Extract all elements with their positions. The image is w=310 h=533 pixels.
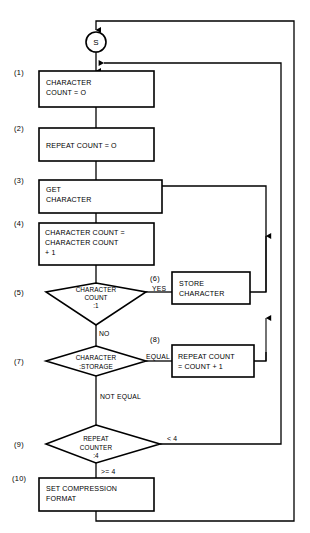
step-9-number: (9)	[14, 440, 24, 449]
step-8-number: (8)	[150, 335, 160, 344]
step-1-line-1: CHARACTER	[46, 79, 92, 87]
step-10-line-1: SET COMPRESSION	[46, 485, 117, 493]
flowchart-canvas: S CHARACTER COUNT = O (1) REPEAT COUNT =…	[0, 0, 310, 533]
step-2-node: REPEAT COUNT = O	[39, 128, 154, 161]
step-2-line-1: REPEAT COUNT = O	[46, 142, 117, 150]
step-2-number: (2)	[14, 124, 24, 133]
connector-repeatcount-to-getchar	[254, 318, 266, 361]
step-4-line-2: CHARACTER COUNT	[45, 239, 119, 247]
step-10-node: SET COMPRESSION FORMAT	[39, 478, 154, 511]
flowchart-svg: S CHARACTER COUNT = O (1) REPEAT COUNT =…	[0, 0, 310, 533]
edge-label-ge-four: >= 4	[101, 468, 115, 475]
edge-label-no: NO	[99, 330, 110, 337]
step-6-number: (6)	[150, 274, 160, 283]
edge-label-not-equal: NOT EQUAL	[100, 393, 141, 401]
step-8-line-2: = COUNT + 1	[178, 363, 223, 371]
step-4-node: CHARACTER COUNT = CHARACTER COUNT + 1	[39, 223, 154, 265]
step-7-line-2: :STORAGE	[79, 363, 113, 370]
step-1-number: (1)	[14, 68, 24, 77]
step-1-line-2: COUNT = O	[46, 89, 86, 97]
step-5-number: (5)	[14, 288, 24, 297]
step-5-node: CHARACTER COUNT :1	[46, 283, 146, 325]
step-9-line-3: :4	[93, 452, 99, 459]
start-node-label: S	[93, 38, 98, 47]
step-10-line-2: FORMAT	[46, 495, 77, 503]
step-9-line-2: COUNTER	[80, 444, 113, 451]
step-4-line-3: + 1	[45, 249, 56, 257]
step-7-number: (7)	[14, 357, 24, 366]
step-5-line-1: CHARACTER	[76, 286, 117, 293]
step-3-node: GET CHARACTER	[39, 180, 162, 213]
edge-label-less-than-four: < 4	[167, 435, 177, 442]
step-9-line-1: REPEAT	[83, 435, 109, 442]
step-6-node: STORE CHARACTER	[172, 272, 250, 304]
step-6-line-1: STORE	[179, 280, 204, 288]
step-7-line-1: CHARACTER	[76, 354, 117, 361]
step-7-node: CHARACTER :STORAGE	[46, 346, 146, 376]
step-3-line-2: CHARACTER	[46, 196, 92, 204]
step-8-line-1: REPEAT COUNT	[178, 353, 235, 361]
edge-label-yes: YES	[152, 285, 166, 292]
step-3-line-1: GET	[46, 186, 62, 194]
start-node: S	[86, 32, 106, 52]
step-9-node: REPEAT COUNTER :4	[46, 425, 160, 463]
step-5-line-2: COUNT	[84, 294, 107, 301]
step-10-number: (10)	[12, 474, 26, 483]
edge-label-equal: EQUAL	[146, 353, 170, 361]
step-4-number: (4)	[14, 219, 24, 228]
step-1-node: CHARACTER COUNT = O	[39, 71, 154, 107]
step-6-line-2: CHARACTER	[179, 290, 225, 298]
step-8-node: REPEAT COUNT = COUNT + 1	[172, 345, 254, 377]
step-4-line-1: CHARACTER COUNT =	[45, 229, 125, 237]
step-3-number: (3)	[14, 176, 24, 185]
step-5-line-3: :1	[93, 302, 99, 309]
